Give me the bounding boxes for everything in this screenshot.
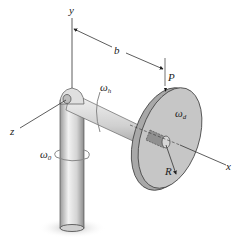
mechanics-diagram: y b z ω0 ωh x ωd P R [0, 0, 248, 244]
dimension-b-label: b [114, 44, 120, 56]
hinge-pin [63, 95, 71, 104]
vertical-post [60, 100, 84, 228]
omega-h-label: ωh [100, 81, 112, 95]
z-axis [20, 100, 66, 128]
dimension-b-line [74, 29, 112, 47]
y-axis-label: y [68, 4, 74, 16]
x-axis-label: x [225, 160, 231, 172]
point-p-label: P [167, 71, 175, 83]
dimension-b-line-2 [126, 53, 163, 69]
omega-0-label: ω0 [40, 148, 52, 162]
z-axis-label: z [9, 125, 15, 137]
radius-r-label: R [164, 165, 172, 177]
post-bottom [60, 225, 84, 232]
